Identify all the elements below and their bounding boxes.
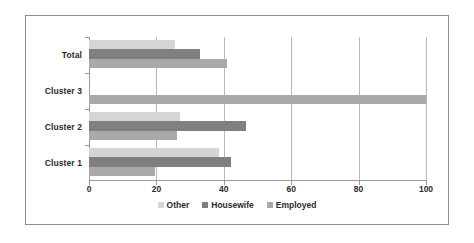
legend-swatch-icon-housewife <box>202 202 208 208</box>
y-axis-label-cluster-2: Cluster 2 <box>45 122 82 132</box>
x-axis-label-80: 80 <box>354 184 363 194</box>
gridline-100 <box>426 37 427 181</box>
x-axis-labels: 0 20 40 60 80 100 <box>89 181 426 197</box>
x-axis-label-100: 100 <box>419 184 433 194</box>
y-axis-label-total: Total <box>62 50 82 60</box>
bar-track-cluster-1 <box>89 148 426 178</box>
bar-cluster-2-other <box>89 112 180 121</box>
bar-group-total: Total <box>89 37 426 73</box>
chart-figure-frame: Total Cluster 3 Cluster 2 <box>25 15 449 225</box>
bar-total-employed <box>89 59 227 68</box>
y-axis-label-cluster-1: Cluster 1 <box>45 158 82 168</box>
legend-item-employed[interactable]: Employed <box>267 200 317 210</box>
bar-cluster-1-other <box>89 148 219 157</box>
bar-track-total <box>89 40 426 70</box>
x-axis-label-20: 20 <box>152 184 161 194</box>
legend-label-other: Other <box>167 200 190 210</box>
bar-cluster-3-employed <box>89 95 426 104</box>
bar-group-cluster-2: Cluster 2 <box>89 109 426 145</box>
bar-cluster-2-housewife <box>89 121 246 131</box>
bar-cluster-1-employed <box>89 167 155 176</box>
chart-legend: Other Housewife Employed <box>26 200 448 210</box>
bar-track-cluster-2 <box>89 112 426 142</box>
x-axis-label-0: 0 <box>87 184 92 194</box>
legend-label-housewife: Housewife <box>211 200 254 210</box>
bar-group-cluster-3: Cluster 3 <box>89 73 426 109</box>
y-tick-mark <box>85 145 89 146</box>
y-axis-label-cluster-3: Cluster 3 <box>45 86 82 96</box>
legend-item-housewife[interactable]: Housewife <box>202 200 254 210</box>
y-tick-mark <box>85 73 89 74</box>
bar-cluster-2-employed <box>89 131 177 140</box>
legend-swatch-icon-employed <box>267 202 273 208</box>
bar-total-other <box>89 40 175 49</box>
plot-area: Total Cluster 3 Cluster 2 <box>89 37 426 181</box>
bar-cluster-1-housewife <box>89 157 231 167</box>
bar-group-cluster-1: Cluster 1 <box>89 145 426 181</box>
legend-swatch-icon-other <box>158 202 164 208</box>
x-axis-label-40: 40 <box>219 184 228 194</box>
x-axis-label-60: 60 <box>286 184 295 194</box>
bar-track-cluster-3 <box>89 76 426 106</box>
bar-total-housewife <box>89 49 200 59</box>
legend-label-employed: Employed <box>276 200 317 210</box>
y-tick-mark <box>85 109 89 110</box>
y-tick-mark <box>85 37 89 38</box>
legend-item-other[interactable]: Other <box>158 200 190 210</box>
